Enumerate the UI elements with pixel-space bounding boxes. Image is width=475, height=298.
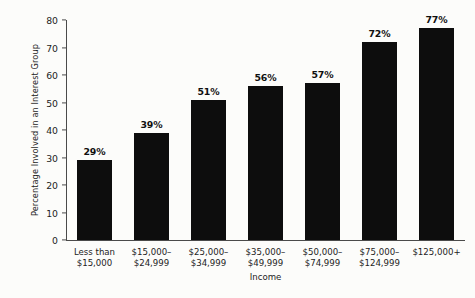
bar-group: 57% [305, 20, 340, 240]
y-tick-label: 20 [0, 180, 58, 191]
bar-value-label: 39% [140, 119, 162, 130]
y-tick-label: 10 [0, 207, 58, 218]
y-tick-label: 80 [0, 15, 58, 26]
plot-area: 29%39%51%56%57%72%77% [66, 20, 465, 240]
bar-value-label: 51% [197, 86, 219, 97]
bar [305, 83, 340, 240]
x-axis-title: Income [206, 272, 326, 282]
y-tick-label: 70 [0, 42, 58, 53]
bar [362, 42, 397, 240]
bar-value-label: 77% [425, 14, 447, 25]
bar [248, 86, 283, 240]
bar [134, 133, 169, 240]
bar-group: 77% [419, 20, 454, 240]
bar-value-label: 57% [311, 69, 333, 80]
bar [191, 100, 226, 240]
bar [419, 28, 454, 240]
x-tick-label: $125,000+ [392, 247, 475, 258]
y-tick-label: 60 [0, 70, 58, 81]
y-tick-label: 30 [0, 152, 58, 163]
bar-group: 56% [248, 20, 283, 240]
bar-group: 51% [191, 20, 226, 240]
bar-group: 29% [77, 20, 112, 240]
bar [77, 160, 112, 240]
bar-value-label: 29% [83, 146, 105, 157]
bar-value-label: 72% [368, 28, 390, 39]
y-tick-label: 50 [0, 97, 58, 108]
y-tick-label: 0 [0, 235, 58, 246]
bar-group: 39% [134, 20, 169, 240]
x-axis-line [66, 240, 465, 241]
bar-value-label: 56% [254, 72, 276, 83]
bar-chart-figure: Percentage Involved in an Interest Group… [0, 0, 475, 298]
x-tick-label-line: $125,000+ [392, 247, 475, 258]
y-tick-label: 40 [0, 125, 58, 136]
x-tick-label-line: $124,999 [335, 258, 425, 269]
bar-group: 72% [362, 20, 397, 240]
